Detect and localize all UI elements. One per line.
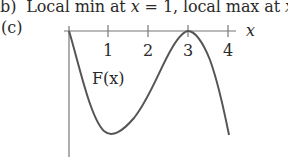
tick-label-1: 1 <box>103 41 113 60</box>
function-graph: 1 2 3 4 x F(x) <box>0 0 288 157</box>
curve-label: F(x) <box>92 69 125 88</box>
x-axis-label: x <box>246 21 255 40</box>
tick-label-4: 4 <box>223 41 233 60</box>
tick-label-2: 2 <box>143 41 153 60</box>
tick-label-3: 3 <box>183 41 193 60</box>
